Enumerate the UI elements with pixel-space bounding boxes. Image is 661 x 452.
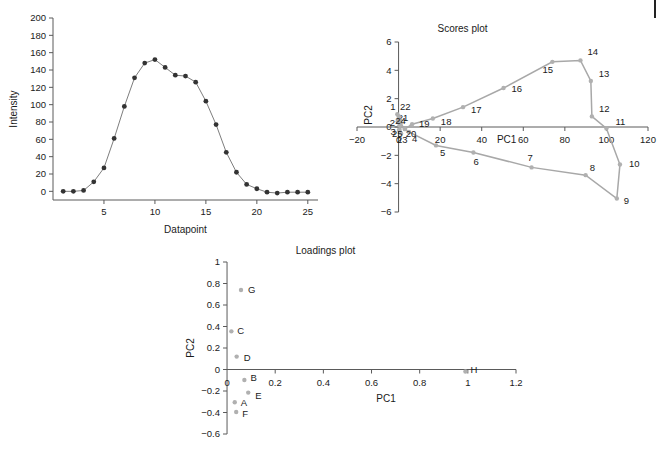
data-point-marker xyxy=(234,410,238,414)
x-tick-label: 120 xyxy=(640,134,656,145)
data-point-marker xyxy=(242,378,246,382)
data-point-marker xyxy=(122,104,127,109)
data-point-marker xyxy=(461,105,465,109)
data-point-marker xyxy=(471,150,475,154)
y-tick-label: −2 xyxy=(381,150,392,161)
x-tick-label: 25 xyxy=(303,206,314,217)
data-point-label: 15 xyxy=(542,64,553,75)
data-point-label: 10 xyxy=(629,158,640,169)
y-tick-label: 0.8 xyxy=(207,278,220,289)
x-tick-label: −20 xyxy=(349,134,365,145)
data-point-marker xyxy=(618,162,622,166)
data-point-marker xyxy=(234,354,238,358)
data-point-marker xyxy=(410,122,414,126)
y-tick-label: −0.6 xyxy=(201,428,220,439)
chart-scores-plot: Scores plot−6−4−20246−200204060801001201… xyxy=(349,23,656,217)
x-tick-label: 0.2 xyxy=(269,377,282,388)
data-point-marker xyxy=(229,329,233,333)
y-tick-label: 0 xyxy=(41,186,46,197)
data-point-marker xyxy=(246,390,250,394)
chart-intensity-profile: 020406080100120140160180200510152025Data… xyxy=(8,12,318,235)
y-tick-label: 0.2 xyxy=(207,342,220,353)
data-point-label: 7 xyxy=(528,152,533,163)
x-tick-label: 40 xyxy=(476,134,487,145)
y-axis-title: PC2 xyxy=(363,105,374,125)
data-point-marker xyxy=(285,190,290,195)
data-point-marker xyxy=(265,190,270,195)
data-point-label: 14 xyxy=(587,46,598,57)
data-point-marker xyxy=(589,79,593,83)
y-tick-label: 0.6 xyxy=(207,299,220,310)
data-point-marker xyxy=(173,73,178,78)
y-tick-label: 80 xyxy=(35,116,46,127)
x-tick-label: 0 xyxy=(224,377,229,388)
x-tick-label: 0.4 xyxy=(317,377,330,388)
data-point-marker xyxy=(203,99,208,104)
series-line xyxy=(63,60,308,193)
data-point-label: 22 xyxy=(400,101,411,112)
data-point-marker xyxy=(153,57,158,62)
y-tick-label: 60 xyxy=(35,134,46,145)
data-point-marker xyxy=(244,182,249,187)
data-point-marker xyxy=(578,58,582,62)
data-point-marker xyxy=(275,191,280,196)
x-tick-label: 5 xyxy=(101,206,106,217)
y-tick-label: 160 xyxy=(30,47,46,58)
data-point-marker xyxy=(91,179,96,184)
x-tick-label: 15 xyxy=(201,206,212,217)
data-point-label: G xyxy=(248,284,255,295)
data-point-marker xyxy=(501,86,505,90)
data-point-label: 1 xyxy=(390,101,395,112)
x-tick-label: 80 xyxy=(560,134,571,145)
data-point-label: 11 xyxy=(615,116,625,127)
data-point-label: C xyxy=(237,325,244,336)
data-point-marker xyxy=(81,188,86,193)
data-point-marker xyxy=(214,122,219,127)
data-point-marker xyxy=(463,369,467,373)
x-tick-label: 1 xyxy=(465,377,470,388)
page-corner-mark xyxy=(654,0,656,18)
y-tick-label: −0.4 xyxy=(201,407,220,418)
y-tick-label: 0 xyxy=(215,364,220,375)
data-point-marker xyxy=(583,173,587,177)
data-point-marker xyxy=(102,166,107,171)
data-point-label: 16 xyxy=(512,83,523,94)
x-tick-label: 0.8 xyxy=(413,377,426,388)
data-point-label: 18 xyxy=(441,116,452,127)
data-point-label: 25 xyxy=(392,128,403,139)
y-tick-label: 40 xyxy=(35,151,46,162)
x-axis-title: PC1 xyxy=(497,134,517,145)
data-point-marker xyxy=(132,75,137,80)
y-tick-label: 0.4 xyxy=(207,321,220,332)
data-point-marker xyxy=(254,186,259,191)
data-point-marker xyxy=(112,136,117,141)
data-point-marker xyxy=(615,196,619,200)
y-tick-label: 180 xyxy=(30,30,46,41)
x-axis-title: PC1 xyxy=(376,393,396,404)
figure-canvas: 020406080100120140160180200510152025Data… xyxy=(0,0,661,452)
y-tick-label: 140 xyxy=(30,64,46,75)
data-point-marker xyxy=(61,189,66,194)
x-tick-label: 60 xyxy=(518,134,529,145)
x-axis-title: Datapoint xyxy=(164,224,207,235)
data-point-label: 8 xyxy=(590,162,595,173)
data-point-label: 19 xyxy=(419,118,430,129)
data-point-label: 17 xyxy=(471,104,482,115)
y-axis-title: Intensity xyxy=(8,90,19,127)
y-tick-label: 20 xyxy=(35,168,46,179)
data-point-label: F xyxy=(242,408,248,419)
data-point-marker xyxy=(193,80,198,85)
y-tick-label: 200 xyxy=(30,12,46,23)
data-point-marker xyxy=(142,61,147,66)
data-point-marker xyxy=(163,65,168,70)
data-point-label: A xyxy=(241,397,248,408)
data-point-marker xyxy=(233,400,237,404)
data-point-marker xyxy=(590,114,594,118)
data-point-marker xyxy=(295,190,300,195)
data-point-label: 24 xyxy=(395,115,406,126)
x-tick-label: 20 xyxy=(252,206,263,217)
y-tick-label: 100 xyxy=(30,99,46,110)
data-point-marker xyxy=(529,165,533,169)
data-point-label: 12 xyxy=(599,103,610,114)
data-point-label: E xyxy=(255,390,261,401)
